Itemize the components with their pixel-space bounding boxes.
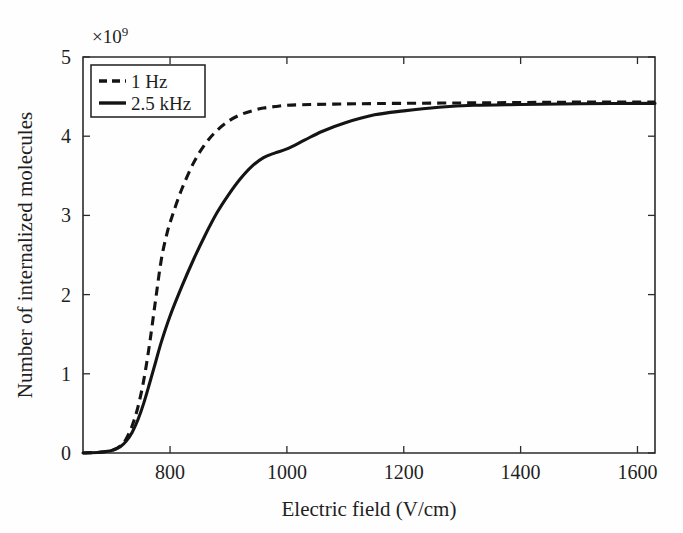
x-axis-ticks xyxy=(170,57,637,453)
legend-label-25khz: 2.5 kHz xyxy=(131,93,191,114)
y-tick-label: 2 xyxy=(61,284,71,306)
line-chart: 8001000120014001600 012345 ×109 1 Hz 2.5… xyxy=(0,0,683,533)
x-tick-label: 800 xyxy=(155,461,185,483)
legend: 1 Hz 2.5 kHz xyxy=(91,65,205,117)
y-tick-label: 5 xyxy=(61,46,71,68)
x-tick-label: 1000 xyxy=(267,461,307,483)
y-axis-exponent: ×109 xyxy=(92,24,128,48)
x-axis-title: Electric field (V/cm) xyxy=(282,497,457,521)
y-tick-label: 1 xyxy=(61,363,71,385)
x-axis-tick-labels: 8001000120014001600 xyxy=(155,461,657,483)
x-tick-label: 1200 xyxy=(384,461,424,483)
series-line-25khz xyxy=(83,103,655,453)
y-axis-title: Number of internalized molecules xyxy=(13,112,37,398)
data-series-group xyxy=(83,102,655,453)
figure-canvas: 8001000120014001600 012345 ×109 1 Hz 2.5… xyxy=(0,0,683,533)
y-tick-label: 0 xyxy=(61,442,71,464)
y-tick-label: 3 xyxy=(61,204,71,226)
y-tick-label: 4 xyxy=(61,125,71,147)
y-axis-tick-labels: 012345 xyxy=(61,46,71,464)
x-tick-label: 1600 xyxy=(617,461,657,483)
legend-label-1hz: 1 Hz xyxy=(131,71,167,92)
series-line-1hz xyxy=(83,102,655,453)
x-tick-label: 1400 xyxy=(501,461,541,483)
